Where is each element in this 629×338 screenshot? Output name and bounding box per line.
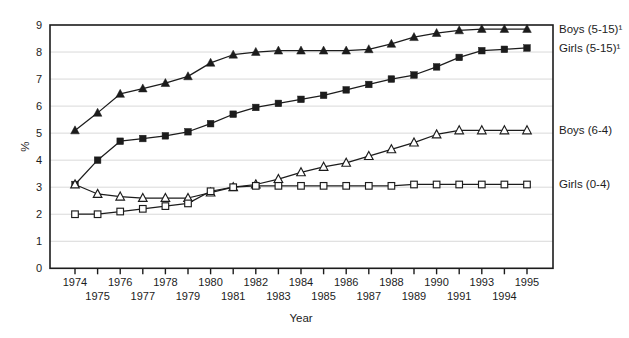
x-tick-label: 1976	[108, 276, 132, 288]
open-square-marker	[140, 206, 147, 213]
series-1	[72, 45, 531, 188]
open-square-marker	[185, 200, 192, 207]
x-tick-label: 1974	[63, 276, 87, 288]
filled-square-marker	[456, 54, 463, 61]
filled-square-marker	[524, 45, 531, 52]
y-axis: 0123456789%	[19, 19, 42, 274]
filled-square-marker	[501, 46, 508, 53]
x-axis: 1974197519761977197819791980198119821983…	[63, 268, 539, 324]
filled-square-marker	[298, 96, 305, 103]
percentage-by-year-line-chart: 0123456789%19741975197619771978197919801…	[0, 0, 629, 338]
y-tick-label: 3	[36, 181, 42, 193]
open-square-marker	[207, 188, 214, 195]
x-tick-label: 1981	[221, 290, 245, 302]
open-square-marker	[343, 183, 350, 190]
open-square-marker	[275, 183, 282, 190]
filled-square-marker	[479, 47, 486, 54]
filled-square-marker	[207, 120, 214, 127]
open-square-marker	[162, 203, 169, 210]
line-chart-figure: 0123456789%19741975197619771978197919801…	[0, 0, 629, 338]
x-tick-label: 1985	[311, 290, 335, 302]
y-tick-label: 4	[36, 154, 42, 166]
filled-square-marker	[388, 76, 395, 83]
open-square-marker	[117, 208, 124, 215]
open-square-marker	[524, 181, 531, 188]
y-tick-label: 0	[36, 262, 42, 274]
filled-square-marker	[140, 135, 147, 142]
open-square-marker	[479, 181, 486, 188]
x-tick-label: 1983	[266, 290, 290, 302]
filled-square-marker	[94, 157, 101, 164]
x-tick-label: 1989	[402, 290, 426, 302]
y-tick-label: 8	[36, 46, 42, 58]
legend-label-2: Boys (6-4)	[559, 124, 612, 136]
x-tick-label: 1975	[85, 290, 109, 302]
open-square-marker	[388, 183, 395, 190]
filled-triangle-marker	[93, 108, 102, 116]
filled-triangle-marker	[71, 126, 80, 134]
legend-label-1: Girls (5-15)¹	[559, 42, 621, 54]
x-tick-label: 1982	[244, 276, 268, 288]
filled-square-marker	[411, 72, 418, 79]
y-tick-label: 6	[36, 100, 42, 112]
filled-square-marker	[320, 92, 327, 99]
x-tick-label: 1988	[379, 276, 403, 288]
open-square-marker	[230, 184, 237, 191]
series-line	[75, 29, 527, 130]
open-square-marker	[320, 183, 327, 190]
filled-square-marker	[117, 138, 124, 145]
x-tick-label: 1984	[289, 276, 313, 288]
filled-square-marker	[253, 104, 260, 111]
frame	[50, 25, 553, 268]
open-square-marker	[433, 181, 440, 188]
x-tick-label: 1991	[447, 290, 471, 302]
x-tick-label: 1990	[424, 276, 448, 288]
y-tick-label: 2	[36, 208, 42, 220]
filled-square-marker	[343, 87, 350, 94]
plot-frame	[50, 25, 553, 268]
y-tick-label: 7	[36, 73, 42, 85]
filled-square-marker	[162, 133, 169, 140]
open-square-marker	[72, 211, 79, 218]
x-tick-label: 1979	[176, 290, 200, 302]
open-square-marker	[366, 183, 373, 190]
legend: Boys (5-15)¹Girls (5-15)¹Boys (6-4)Girls…	[559, 23, 622, 190]
x-tick-label: 1980	[198, 276, 222, 288]
y-tick-label: 1	[36, 235, 42, 247]
y-axis-title: %	[19, 142, 31, 152]
filled-square-marker	[433, 64, 440, 71]
filled-square-marker	[185, 128, 192, 135]
y-tick-label: 9	[36, 19, 42, 31]
y-tick-label: 5	[36, 127, 42, 139]
gridlines	[50, 52, 553, 241]
filled-square-marker	[230, 111, 237, 118]
open-square-marker	[411, 181, 418, 188]
open-square-marker	[298, 183, 305, 190]
x-axis-title: Year	[289, 312, 312, 324]
x-tick-label: 1993	[470, 276, 494, 288]
x-tick-label: 1987	[357, 290, 381, 302]
open-square-marker	[253, 183, 260, 190]
x-tick-label: 1978	[153, 276, 177, 288]
filled-square-marker	[366, 81, 373, 88]
filled-triangle-marker	[184, 72, 193, 80]
open-square-marker	[94, 211, 101, 218]
legend-label-0: Boys (5-15)¹	[559, 23, 622, 35]
legend-label-3: Girls (0-4)	[559, 178, 610, 190]
x-tick-label: 1994	[492, 290, 516, 302]
open-square-marker	[456, 181, 463, 188]
filled-square-marker	[275, 100, 282, 107]
x-tick-label: 1986	[334, 276, 358, 288]
open-square-marker	[501, 181, 508, 188]
series-line	[75, 48, 527, 185]
x-tick-label: 1995	[515, 276, 539, 288]
x-tick-label: 1977	[131, 290, 155, 302]
